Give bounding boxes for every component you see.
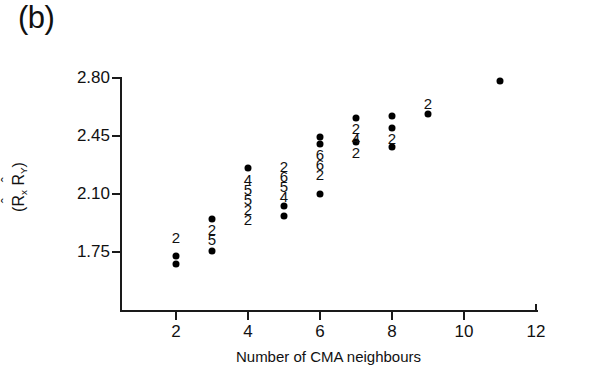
y-axis-var-rx-sub: x bbox=[18, 190, 29, 195]
y-axis-tick-label: 2.45 bbox=[52, 126, 110, 146]
point-count-label: 4 bbox=[280, 188, 288, 203]
x-axis-tick-label: 10 bbox=[444, 322, 484, 342]
data-point bbox=[497, 77, 504, 84]
point-count-label: 5 bbox=[208, 231, 216, 246]
x-axis-tick bbox=[391, 312, 393, 320]
x-axis-tick-label: 8 bbox=[372, 322, 412, 342]
plot-area: 22545522265466224222 bbox=[121, 78, 536, 311]
data-point bbox=[173, 253, 180, 260]
y-axis-tick bbox=[112, 135, 120, 137]
y-axis-title-open: ( bbox=[10, 207, 27, 212]
x-axis-tick-label: 4 bbox=[228, 322, 268, 342]
panel-label: (b) bbox=[18, 2, 54, 33]
y-axis-var-ry-sub: Y bbox=[18, 167, 29, 174]
point-count-label: 2 bbox=[424, 96, 432, 111]
data-point bbox=[317, 190, 324, 197]
data-point bbox=[209, 247, 216, 254]
y-axis-tick-label: 1.75 bbox=[52, 242, 110, 262]
x-axis-tick bbox=[247, 312, 249, 320]
y-axis-tick bbox=[112, 251, 120, 253]
x-axis-tick-label: 6 bbox=[300, 322, 340, 342]
x-axis-tick bbox=[463, 312, 465, 320]
x-axis-title: Number of CMA neighbours bbox=[121, 348, 536, 365]
data-point bbox=[281, 212, 288, 219]
y-axis-tick-label: 2.80 bbox=[52, 68, 110, 88]
point-count-label: 2 bbox=[388, 130, 396, 145]
x-axis-tick-label: 2 bbox=[156, 322, 196, 342]
point-count-label: 2 bbox=[172, 230, 180, 245]
hat-accent-icon: ˆ bbox=[0, 195, 14, 207]
y-axis-tick bbox=[112, 193, 120, 195]
y-axis-tick-label: 2.10 bbox=[52, 184, 110, 204]
y-axis-var-rx: ˆR bbox=[10, 195, 28, 207]
figure-panel: (b) 2.802.452.101.75 24681012 2254552226… bbox=[0, 0, 614, 386]
data-point bbox=[173, 260, 180, 267]
hat-accent-icon: ˆ bbox=[0, 174, 14, 186]
x-axis-tick bbox=[319, 312, 321, 320]
y-axis-var-ry: ˆR bbox=[10, 174, 28, 186]
point-count-label: 2 bbox=[244, 211, 252, 226]
data-point bbox=[389, 112, 396, 119]
point-count-label: 2 bbox=[352, 145, 360, 160]
x-axis-tick bbox=[175, 312, 177, 320]
x-axis-tick-label: 12 bbox=[516, 322, 556, 342]
y-axis-tick bbox=[112, 77, 120, 79]
y-axis-title: (ˆRx ˆRY) bbox=[10, 102, 28, 272]
point-count-label: 2 bbox=[316, 167, 324, 182]
data-point bbox=[317, 134, 324, 141]
